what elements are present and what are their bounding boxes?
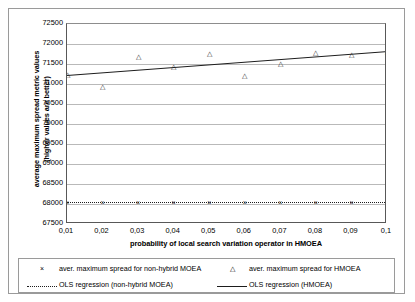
y-tick-label: 68500 [19,179,63,186]
x-tick-mark [280,222,281,223]
x-tick-label: 0,03 [122,227,152,235]
data-point-hmoea: △ [207,49,212,56]
y-tick-mark [66,124,67,125]
gridline [67,44,385,45]
gridline [67,124,385,125]
x-tick-label: 0,01 [51,227,81,235]
x-tick-mark [209,222,210,223]
x-tick-mark [245,222,246,223]
legend-row-markers: × aver. maximum spread for non-hybrid MO… [19,260,394,277]
y-tick-mark [66,104,67,105]
x-axis-title: probability of local search variation op… [66,239,386,248]
x-tick-mark [316,222,317,223]
gridline [67,84,385,85]
data-point-non-hybrid-moea: × [66,199,69,206]
x-tick-mark [351,222,352,223]
x-tick-label: 0,08 [300,227,330,235]
data-point-hmoea: △ [66,71,70,78]
legend-row-lines: OLS regression (non-hybrid MOEA) OLS reg… [19,276,394,293]
legend-label-2: OLS regression (non-hybrid MOEA) [59,281,173,289]
y-tick-label: 70000 [19,119,63,126]
y-tick-label: 67500 [19,219,63,226]
x-axis-tick-labels: 0,010,020,030,040,050,060,070,080,090,1 [66,227,386,239]
chart-legend: × aver. maximum spread for non-hybrid MO… [18,258,395,293]
y-tick-label: 72500 [19,19,63,26]
data-point-hmoea: △ [349,50,354,57]
y-tick-mark [66,84,67,85]
plot-area: ××××××××××△△△△△△△△△△ [66,23,386,223]
data-point-non-hybrid-moea: × [243,199,247,206]
x-tick-label: 0,1 [371,227,401,235]
legend-triangle-marker-icon: △ [215,265,249,272]
y-tick-label: 71000 [19,79,63,86]
data-point-hmoea: △ [242,72,247,79]
x-tick-mark [138,222,139,223]
x-tick-mark [67,222,68,223]
legend-item-hmoea-points: △ aver. maximum spread for HMOEA [215,265,360,273]
legend-item-ols-hmoea: OLS regression (HMOEA) [215,281,332,289]
data-point-non-hybrid-moea: × [314,199,318,206]
data-point-hmoea: △ [385,48,387,55]
x-tick-label: 0,05 [193,227,223,235]
y-axis-tick-labels: 7250072000715007100070500700006950069000… [19,23,63,223]
regression-line-non-hybrid [67,202,385,203]
gridline [67,104,385,105]
x-tick-label: 0,07 [264,227,294,235]
legend-item-ols-non-hybrid: OLS regression (non-hybrid MOEA) [25,281,173,289]
data-point-hmoea: △ [100,83,105,90]
plot-block: average maximum spread metric values (hi… [9,9,404,252]
data-point-hmoea: △ [313,49,318,56]
gridline [67,144,385,145]
y-tick-label: 72000 [19,39,63,46]
data-point-non-hybrid-moea: × [385,199,386,206]
data-point-non-hybrid-moea: × [207,199,211,206]
y-tick-mark [66,164,67,165]
legend-solid-line-icon [215,281,249,288]
x-tick-mark [174,222,175,223]
data-point-hmoea: △ [136,53,141,60]
y-tick-label: 69500 [19,139,63,146]
x-tick-label: 0,02 [87,227,117,235]
legend-x-marker-icon: × [25,265,59,272]
x-tick-label: 0,06 [229,227,259,235]
y-tick-mark [66,24,67,25]
data-point-non-hybrid-moea: × [136,199,140,206]
data-point-hmoea: △ [171,62,176,69]
y-tick-label: 68000 [19,199,63,206]
data-point-non-hybrid-moea: × [349,199,353,206]
gridline [67,184,385,185]
data-point-non-hybrid-moea: × [172,199,176,206]
y-tick-label: 69000 [19,159,63,166]
y-tick-mark [66,64,67,65]
y-tick-mark [66,184,67,185]
y-tick-label: 71500 [19,59,63,66]
y-tick-label: 70500 [19,99,63,106]
gridline [67,204,385,205]
chart-frame: average maximum spread metric values (hi… [8,8,405,294]
legend-label-0: aver. maximum spread for non-hybrid MOEA [59,265,201,273]
data-point-non-hybrid-moea: × [101,199,105,206]
data-point-non-hybrid-moea: × [278,199,282,206]
gridline [67,164,385,165]
data-point-hmoea: △ [278,60,283,67]
x-tick-label: 0,04 [158,227,188,235]
legend-dotted-line-icon [25,281,59,288]
legend-item-non-hybrid-moea-points: × aver. maximum spread for non-hybrid MO… [25,265,201,273]
legend-label-1: aver. maximum spread for HMOEA [249,265,360,273]
y-tick-mark [66,144,67,145]
x-tick-mark [103,222,104,223]
legend-label-3: OLS regression (HMOEA) [249,281,332,289]
y-tick-mark [66,44,67,45]
x-tick-label: 0,09 [335,227,365,235]
